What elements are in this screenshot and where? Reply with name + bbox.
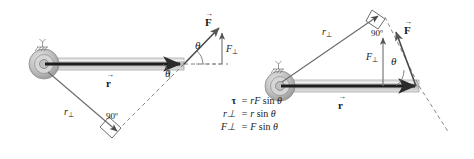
right-force-vector-label: → F bbox=[404, 20, 412, 36]
left-right-angle-label: 90º bbox=[106, 112, 118, 121]
right-diagram-graphics bbox=[265, 10, 449, 133]
left-theta-bottom-label: θ bbox=[165, 68, 170, 79]
equation-lhs-torque: τ bbox=[214, 95, 236, 106]
left-theta-arc-top bbox=[197, 51, 204, 65]
equation-rhs-rperp: = r sin θ bbox=[236, 108, 276, 119]
right-lever-arm-label: r⊥ bbox=[322, 27, 332, 39]
left-theta-top-label: θ bbox=[195, 40, 200, 51]
right-theta-label: θ bbox=[391, 56, 396, 67]
equation-row-rperp: r⊥ = r sin θ bbox=[214, 108, 282, 121]
right-right-angle-label: 90º bbox=[371, 29, 383, 38]
left-force-perp-label: F⊥ bbox=[226, 44, 238, 56]
left-force-line-of-action-dashed-2 bbox=[122, 98, 150, 126]
equation-row-fperp: F⊥ = F sin θ bbox=[214, 121, 282, 134]
right-position-vector-label: → r bbox=[338, 95, 346, 111]
right-force-line-of-action-dashed bbox=[385, 17, 419, 86]
equation-rhs-fperp: = F sin θ bbox=[236, 121, 278, 132]
torque-figure: → F F⊥ → r r⊥ θ θ 90º r⊥ 90º → F F⊥ θ → … bbox=[0, 0, 474, 159]
figure-vector-graphics bbox=[0, 0, 474, 159]
right-right-angle-marker bbox=[366, 10, 385, 29]
equation-lhs-fperp: F⊥ bbox=[214, 121, 236, 132]
equation-lhs-rperp: r⊥ bbox=[214, 108, 236, 119]
right-F-vector bbox=[396, 32, 416, 86]
equation-row-torque: τ = rF sin θ bbox=[214, 95, 282, 108]
right-rperp-vector bbox=[282, 16, 378, 82]
equation-rhs-torque: = rF sin θ bbox=[236, 95, 282, 106]
left-force-vector-label: → F bbox=[205, 12, 213, 28]
left-position-vector-label: → r bbox=[106, 73, 114, 89]
right-force-perp-label: F⊥ bbox=[366, 52, 378, 64]
left-lever-arm-label: r⊥ bbox=[64, 107, 74, 119]
right-force-line-of-action-dashed-2 bbox=[419, 86, 449, 133]
left-F-vector bbox=[184, 28, 219, 64]
equation-block: τ = rF sin θ r⊥ = r sin θ F⊥ = F sin θ bbox=[214, 95, 282, 134]
